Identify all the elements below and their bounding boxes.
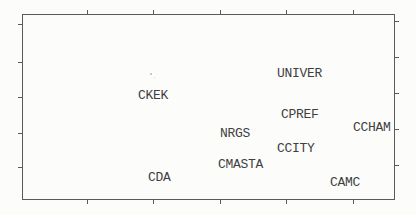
y-axis-tick-left	[18, 24, 22, 25]
x-axis-tick-top	[353, 10, 354, 14]
y-axis-tick-left	[18, 133, 22, 134]
x-axis-tick-bottom	[87, 200, 88, 204]
x-axis-tick-top	[286, 10, 287, 14]
y-axis-tick-right	[395, 93, 399, 94]
y-axis-tick-left	[18, 167, 22, 168]
y-axis-tick-left	[18, 62, 22, 63]
y-axis-tick-right	[395, 21, 399, 22]
y-axis-tick-right	[395, 165, 399, 166]
y-axis-tick-right	[395, 57, 399, 58]
x-axis-tick-bottom	[153, 200, 154, 204]
point-label-ckek: CKEK	[138, 89, 168, 102]
point-label-cda: CDA	[148, 171, 171, 184]
y-axis-tick-right	[395, 129, 399, 130]
x-axis-tick-bottom	[220, 200, 221, 204]
point-label-ccity: CCITY	[277, 142, 315, 155]
x-axis-tick-top	[220, 10, 221, 14]
point-label-cmasta: CMASTA	[218, 158, 263, 171]
x-axis-tick-bottom	[286, 200, 287, 204]
x-axis-tick-top	[153, 10, 154, 14]
point-label-ccham: CCHAM	[353, 121, 391, 134]
scan-speck	[154, 77, 155, 78]
x-axis-tick-bottom	[353, 200, 354, 204]
point-label-camc: CAMC	[330, 176, 360, 189]
x-axis-tick-top	[87, 10, 88, 14]
point-label-cpref: CPREF	[281, 108, 319, 121]
point-label-nrgs: NRGS	[220, 127, 250, 140]
point-label-univer: UNIVER	[277, 67, 322, 80]
scan-speck	[150, 73, 152, 75]
plot-frame	[22, 14, 395, 200]
scatter-plot-figure: UNIVERCKEKCPREFNRGSCCHAMCCITYCMASTACDACA…	[0, 0, 416, 215]
y-axis-tick-left	[18, 97, 22, 98]
